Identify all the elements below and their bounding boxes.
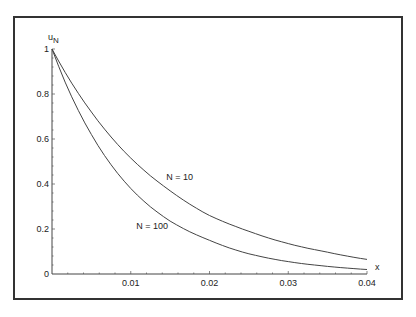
- x-tick-label: 0.01: [122, 278, 140, 288]
- y-tick-label: 1: [44, 44, 49, 54]
- y-tick-label: 0.6: [36, 134, 49, 144]
- y-tick-label: 0.2: [36, 224, 49, 234]
- curve-label: N = 100: [136, 221, 168, 231]
- y-tick-label: 0.4: [36, 179, 49, 189]
- y-tick-label: 0: [44, 269, 49, 279]
- series-line-n10: [52, 49, 367, 259]
- y-axis-label: uN: [48, 32, 59, 45]
- x-tick-label: 0.03: [279, 278, 297, 288]
- x-tick-label: 0.02: [201, 278, 219, 288]
- x-axis-label: x: [375, 262, 380, 272]
- x-tick-label: 0.04: [358, 278, 376, 288]
- series-line-n100: [52, 49, 367, 270]
- y-tick-label: 0.8: [36, 89, 49, 99]
- curve-label: N = 10: [166, 172, 193, 182]
- chart: 0.010.020.030.0400.20.40.60.81xuNN = 10N…: [0, 0, 416, 317]
